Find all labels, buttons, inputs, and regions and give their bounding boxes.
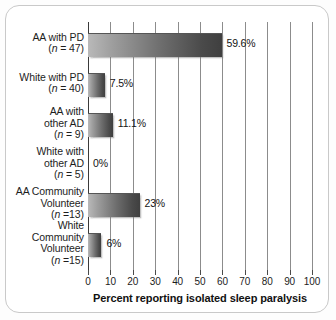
category-label: WhiteCommunityVolunteer(n =15) xyxy=(0,220,84,267)
bar-value-label: 11.1% xyxy=(118,117,146,129)
tick-20 xyxy=(133,270,134,275)
category-label-line: White xyxy=(0,220,84,232)
category-sample-size: (n = 40) xyxy=(0,83,84,95)
tick-60 xyxy=(222,270,223,275)
bar-value-label: 0% xyxy=(93,157,108,169)
bar-value-label: 7.5% xyxy=(110,77,133,89)
category-sample-size: (n =15) xyxy=(0,255,84,267)
category-label: White with PD(n = 40) xyxy=(0,72,84,96)
bar xyxy=(88,73,105,97)
bar-value-label: 6% xyxy=(106,237,121,249)
tick-30 xyxy=(155,270,156,275)
category-sample-size: (n = 5) xyxy=(0,169,84,181)
bar xyxy=(88,113,113,137)
figure-container: 0102030405060708090100 59.6%7.5%11.1%0%2… xyxy=(0,0,336,320)
tick-90 xyxy=(290,270,291,275)
bar xyxy=(88,233,101,257)
category-label-line: AA Community xyxy=(0,186,84,198)
sample-size-symbol: n xyxy=(52,42,58,54)
tick-10 xyxy=(110,270,111,275)
bar-row: 7.5% xyxy=(88,65,312,105)
category-label: AA withother AD(n = 9) xyxy=(0,106,84,141)
category-label-line: White with xyxy=(0,146,84,158)
tick-label-100: 100 xyxy=(297,276,327,287)
tick-40 xyxy=(178,270,179,275)
tick-80 xyxy=(267,270,268,275)
bar-row: 6% xyxy=(88,225,312,265)
category-label: White withother AD(n = 5) xyxy=(0,146,84,181)
sample-size-symbol: n xyxy=(52,82,58,94)
category-label: AA CommunityVolunteer(n =13) xyxy=(0,186,84,221)
bar-value-label: 23% xyxy=(145,197,165,209)
bar-row: 11.1% xyxy=(88,105,312,145)
tick-100 xyxy=(312,270,313,275)
category-sample-size: (n = 9) xyxy=(0,129,84,141)
category-sample-size: (n = 47) xyxy=(0,43,84,55)
sample-size-symbol: n xyxy=(57,128,63,140)
bar xyxy=(88,33,222,57)
category-label: AA with PD(n = 47) xyxy=(0,32,84,56)
bar xyxy=(88,193,140,217)
bar-row: 59.6% xyxy=(88,25,312,65)
x-axis-title: Percent reporting isolated sleep paralys… xyxy=(88,292,312,304)
bar-row: 23% xyxy=(88,185,312,225)
sample-size-symbol: n xyxy=(55,254,61,266)
sample-size-symbol: n xyxy=(57,168,63,180)
tick-70 xyxy=(245,270,246,275)
tick-0 xyxy=(88,270,89,275)
gridline-100 xyxy=(312,22,313,270)
tick-50 xyxy=(200,270,201,275)
bar-value-label: 59.6% xyxy=(227,37,256,49)
plot-area: 0102030405060708090100 59.6%7.5%11.1%0%2… xyxy=(88,22,312,270)
category-label-line: AA with xyxy=(0,106,84,118)
bar-row: 0% xyxy=(88,145,312,185)
